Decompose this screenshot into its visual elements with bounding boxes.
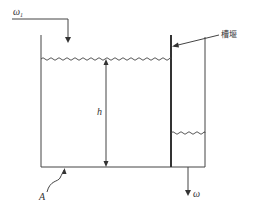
tank-diagram: ω1 h 槽堰 A ω — [0, 0, 255, 211]
inflow-arrow — [12, 19, 68, 40]
height-label: h — [97, 106, 102, 117]
area-label: A — [38, 191, 46, 202]
height-dimension — [104, 59, 109, 167]
weir-label: 槽堰 — [221, 29, 237, 39]
outflow-label: ω — [193, 188, 200, 199]
weir-pointer-line — [174, 35, 219, 46]
side-water-surface — [171, 132, 205, 135]
area-pointer-arrowhead — [62, 168, 67, 174]
area-pointer-line — [47, 170, 64, 192]
weir-pointer-arrowhead — [172, 43, 179, 48]
inflow-label: ω1 — [13, 6, 23, 18]
